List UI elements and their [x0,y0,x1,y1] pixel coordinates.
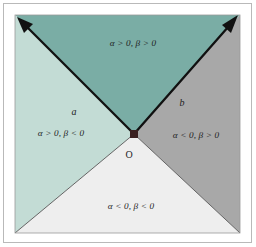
origin-marker [130,130,138,138]
sector-label-right: α < 0, β > 0 [173,131,220,140]
sector-label-bottom: α < 0, β < 0 [108,202,155,211]
sector-label-top: α > 0, β > 0 [110,39,157,48]
axis-label-a: a [72,107,77,117]
sector-label-left: α > 0, β < 0 [38,129,85,138]
origin-label: O [125,150,132,160]
axis-label-b: b [180,98,185,108]
figure-root: α > 0, β > 0 α > 0, β < 0 α < 0, β > 0 α… [0,0,256,247]
